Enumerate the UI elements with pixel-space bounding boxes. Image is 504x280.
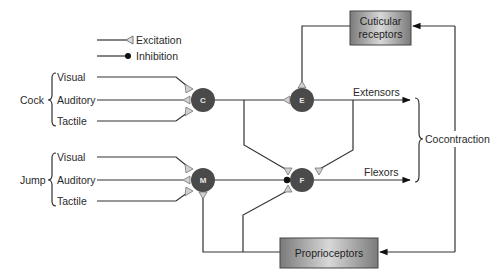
cock-group: Cock Visual Auditory Tactile: [20, 71, 187, 127]
neuron-m-label: M: [200, 176, 207, 185]
jump-visual-wire: [97, 157, 187, 166]
cock-label: Cock: [20, 94, 45, 106]
cuticular-label-line2: receptors: [359, 28, 403, 40]
neuron-f-label: F: [300, 176, 305, 185]
cocontraction-brace: [415, 98, 423, 182]
cuticular-label-line1: Cuticular: [360, 15, 402, 27]
neuron-f: F: [290, 168, 314, 192]
jump-input-tactile: Tactile: [57, 195, 87, 207]
cock-input-visual: Visual: [57, 71, 85, 83]
cocontraction-label: Cocontraction: [425, 133, 490, 145]
cock-tactile-wire: [97, 113, 187, 121]
flexors-label: Flexors: [364, 166, 398, 178]
legend-excitation-label: Excitation: [136, 34, 182, 46]
excitation-synapse-icon: [284, 168, 292, 175]
cock-visual-wire: [97, 77, 187, 86]
jump-brace: [48, 153, 56, 206]
excitation-synapse-icon: [283, 96, 290, 104]
excitation-synapse-icon: [183, 176, 190, 184]
interneuron-wires: [203, 26, 455, 252]
excitation-synapse-icon: [126, 36, 133, 44]
e-to-f-wire: [318, 100, 353, 170]
cuticular-to-e-wire: [302, 26, 350, 84]
excitation-synapse-icon: [315, 168, 323, 175]
jump-label: Jump: [20, 174, 46, 186]
excitation-synapse-icon: [199, 192, 207, 199]
cock-input-auditory: Auditory: [57, 94, 96, 106]
legend: Excitation Inhibition: [97, 34, 182, 62]
proprioceptors-label: Proprioceptors: [295, 247, 363, 259]
jump-group: Jump Visual Auditory Tactile: [20, 151, 187, 207]
excitation-synapse-icon: [183, 96, 190, 104]
extensors-label: Extensors: [353, 86, 400, 98]
neuron-c-label: C: [200, 96, 206, 105]
proprio-to-m-wire: [203, 197, 280, 252]
cock-brace: [48, 73, 56, 126]
inhibition-synapse-icon: [284, 177, 290, 183]
jump-input-visual: Visual: [57, 151, 85, 163]
c-to-f-wire: [244, 100, 287, 170]
legend-inhibition-label: Inhibition: [136, 50, 178, 62]
excitation-synapse-icon: [185, 84, 193, 93]
cuticular-receptors-box: Cuticular receptors: [350, 11, 411, 45]
neuron-m: M: [191, 168, 215, 192]
excitation-synapse-icon: [284, 185, 292, 192]
jump-tactile-wire: [97, 193, 187, 201]
neuron-c: C: [191, 88, 215, 112]
proprioceptors-box: Proprioceptors: [280, 238, 378, 268]
excitation-synapse-icon: [185, 187, 193, 196]
excitation-synapse-icon: [185, 107, 193, 116]
cock-input-tactile: Tactile: [57, 115, 87, 127]
neural-circuit-diagram: Excitation Inhibition Cock Visual Audito…: [0, 0, 504, 280]
neuron-e-label: E: [299, 96, 305, 105]
neuron-e: E: [290, 88, 314, 112]
excitation-synapse-icon: [185, 164, 193, 173]
inhibition-synapse-icon: [125, 53, 131, 59]
excitation-synapse-icon: [298, 81, 306, 88]
jump-input-auditory: Auditory: [57, 174, 96, 186]
